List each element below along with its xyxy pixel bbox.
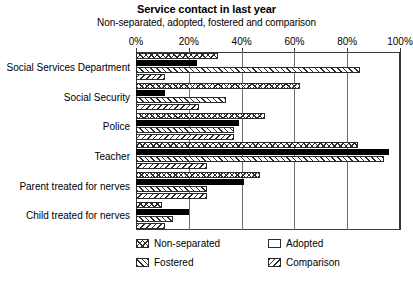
gridline (294, 52, 295, 230)
legend-label: Non-separated (154, 238, 220, 249)
chart-container: Service contact in last year Non-separat… (0, 0, 413, 297)
chart-subtitle: Non-separated, adopted, fostered and com… (0, 17, 413, 28)
bar (136, 113, 265, 119)
x-axis-tick-label: 100% (387, 36, 413, 47)
bar (136, 193, 207, 199)
bar (136, 90, 165, 96)
y-axis-category-label: Police (103, 121, 130, 132)
bar (136, 179, 244, 185)
bar (136, 97, 226, 103)
y-axis-category-label: Child treated for nerves (26, 210, 130, 221)
y-axis-category-labels: Social Services DepartmentSocial Securit… (0, 52, 133, 230)
bar (136, 163, 207, 169)
chart-legend: Non-separatedAdoptedFosteredComparison (136, 238, 400, 280)
legend-item[interactable]: Fostered (136, 257, 193, 268)
y-axis-category-label: Parent treated for nerves (19, 180, 130, 191)
gridline (347, 52, 348, 230)
bar (136, 83, 300, 89)
x-axis-tick (294, 48, 295, 52)
legend-item[interactable]: Non-separated (136, 238, 220, 249)
bar (136, 67, 360, 73)
bar (136, 142, 358, 148)
x-axis-tick-label: 60% (284, 36, 304, 47)
legend-label: Comparison (286, 257, 340, 268)
legend-swatch-icon (268, 239, 281, 248)
x-axis-tick-label: 80% (337, 36, 357, 47)
y-axis-category-label: Social Services Department (7, 61, 130, 72)
x-axis-tick (400, 48, 401, 52)
y-axis-category-label: Social Security (64, 91, 130, 102)
bar (136, 53, 218, 59)
bar (136, 149, 389, 155)
chart-title: Service contact in last year (0, 3, 413, 15)
x-axis-tick (189, 48, 190, 52)
gridline (242, 52, 243, 230)
legend-swatch-icon (136, 239, 149, 248)
bar (136, 120, 239, 126)
legend-item[interactable]: Adopted (268, 238, 323, 249)
bar (136, 172, 260, 178)
bar (136, 104, 199, 110)
y-axis-category-label: Teacher (94, 150, 130, 161)
bar (136, 186, 207, 192)
x-axis-tick-label: 20% (179, 36, 199, 47)
legend-label: Adopted (286, 238, 323, 249)
bar (136, 209, 189, 215)
legend-item[interactable]: Comparison (268, 257, 340, 268)
bar (136, 223, 165, 229)
bar (136, 127, 234, 133)
bar (136, 216, 173, 222)
legend-swatch-icon (136, 258, 149, 267)
gridline (189, 52, 190, 230)
legend-label: Fostered (154, 257, 193, 268)
x-axis-tick (136, 48, 137, 52)
bar (136, 60, 197, 66)
x-axis-tick-labels: 0%20%40%60%80%100% (136, 36, 400, 50)
bar (136, 134, 234, 140)
x-axis-tick-label: 40% (232, 36, 252, 47)
plot-frame (136, 52, 400, 230)
plot-area (136, 52, 400, 230)
bar (136, 74, 165, 80)
bar (136, 202, 162, 208)
gridline (400, 52, 401, 230)
legend-swatch-icon (268, 258, 281, 267)
x-axis-tick (347, 48, 348, 52)
bar (136, 156, 384, 162)
x-axis-tick-label: 0% (129, 36, 143, 47)
x-axis-tick (242, 48, 243, 52)
